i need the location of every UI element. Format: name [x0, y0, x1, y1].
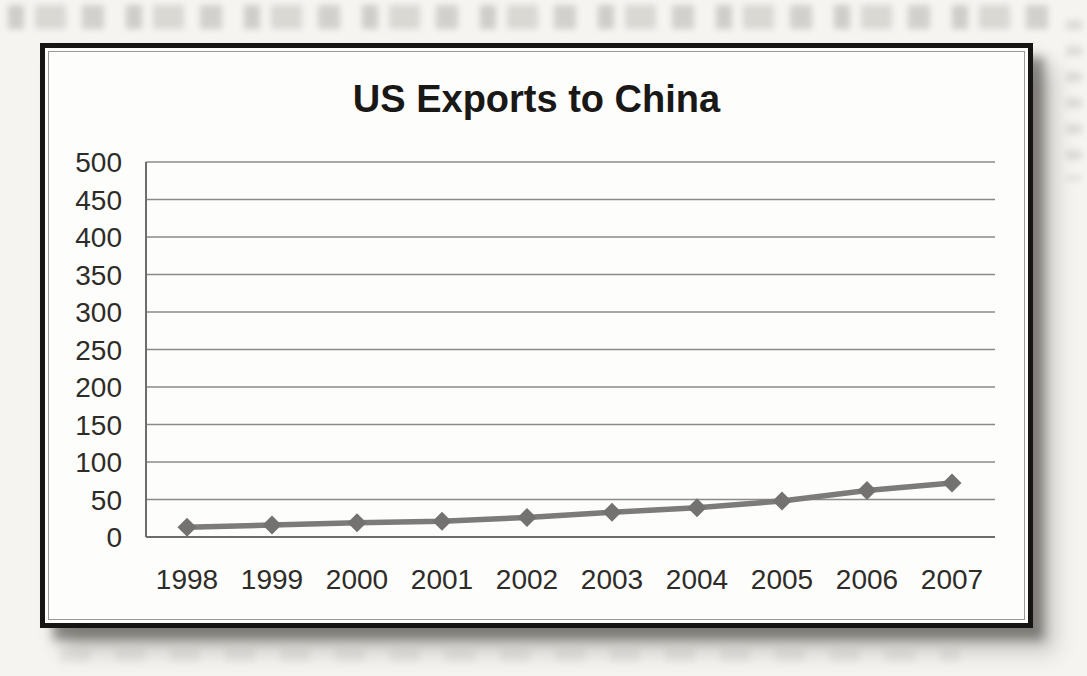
y-tick-label: 0	[106, 522, 122, 553]
y-tick-label: 150	[75, 410, 122, 441]
x-tick-label: 1998	[156, 564, 218, 595]
y-tick-label: 500	[75, 147, 122, 178]
exports-line-chart: 5004504003503002502001501005001998199920…	[0, 0, 1087, 676]
x-tick-label: 2006	[836, 564, 898, 595]
y-tick-label: 400	[75, 222, 122, 253]
y-tick-label: 100	[75, 447, 122, 478]
x-tick-label: 1999	[241, 564, 303, 595]
x-tick-label: 2000	[326, 564, 388, 595]
y-tick-label: 350	[75, 260, 122, 291]
x-tick-label: 2001	[411, 564, 473, 595]
data-point-marker	[688, 498, 707, 517]
data-point-marker	[943, 474, 962, 493]
y-tick-label: 200	[75, 372, 122, 403]
data-point-marker	[773, 492, 792, 511]
data-point-marker	[348, 513, 367, 532]
data-point-marker	[858, 481, 877, 500]
y-tick-label: 250	[75, 335, 122, 366]
data-point-marker	[178, 518, 197, 537]
exports-line	[187, 483, 952, 527]
x-tick-label: 2004	[666, 564, 728, 595]
data-point-marker	[518, 508, 537, 527]
x-tick-label: 2007	[921, 564, 983, 595]
y-tick-label: 50	[91, 485, 122, 516]
y-tick-label: 300	[75, 297, 122, 328]
x-tick-label: 2005	[751, 564, 813, 595]
y-tick-label: 450	[75, 185, 122, 216]
data-point-marker	[603, 503, 622, 522]
x-tick-label: 2002	[496, 564, 558, 595]
data-point-marker	[433, 512, 452, 531]
data-point-marker	[263, 516, 282, 535]
x-tick-label: 2003	[581, 564, 643, 595]
